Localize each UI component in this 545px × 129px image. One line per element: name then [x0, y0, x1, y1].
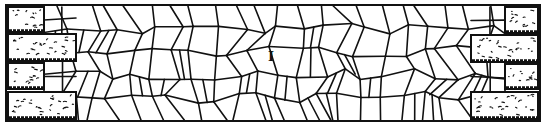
- stone-joint: [471, 77, 505, 78]
- stone-joint: [180, 50, 185, 79]
- stone-joint: [383, 6, 390, 34]
- stone-joint: [423, 92, 426, 120]
- stone-joint: [215, 56, 217, 80]
- stone-joint: [188, 50, 216, 56]
- stone-joint: [380, 77, 381, 98]
- stone-joint: [333, 6, 352, 23]
- stone-joint: [408, 25, 427, 26]
- stone-joint: [298, 6, 305, 29]
- stone-joint: [296, 77, 327, 78]
- stone-joint: [439, 98, 458, 100]
- stone-joint: [303, 29, 304, 48]
- stone-joint: [275, 6, 277, 26]
- stone-joint: [274, 98, 284, 120]
- stone-joint: [425, 26, 427, 49]
- stone-joint: [152, 49, 171, 50]
- stone-joint: [107, 30, 117, 54]
- stone-joint: [44, 71, 76, 74]
- stone-wall-illustration: [0, 0, 545, 129]
- stone-joint: [132, 95, 153, 96]
- stone-joint: [425, 79, 435, 92]
- stone-joint: [275, 26, 304, 29]
- stone-joint: [198, 102, 213, 103]
- stone-joint: [214, 80, 215, 102]
- stone-joint: [149, 49, 152, 80]
- stone-joint: [434, 49, 458, 80]
- stone-joint: [356, 6, 364, 27]
- stone-joint: [491, 6, 494, 26]
- stone-joint: [353, 27, 365, 57]
- stone-joint: [285, 76, 287, 100]
- stone-joint: [254, 6, 265, 33]
- stone-joint: [123, 6, 142, 34]
- stone-joint: [103, 6, 117, 30]
- stone-joint: [237, 6, 248, 29]
- stone-joint: [385, 34, 389, 56]
- stone-joint: [152, 6, 154, 27]
- stone-joint: [316, 77, 327, 93]
- stone-joint: [248, 29, 266, 33]
- stone-joint: [161, 79, 164, 95]
- brick-right: [505, 64, 538, 89]
- stone-joint: [402, 96, 404, 120]
- stone-joint: [149, 79, 153, 96]
- stone-joint: [308, 98, 319, 120]
- stone-joint: [214, 102, 227, 120]
- flagstone-pattern: [44, 6, 505, 120]
- stone-joint: [269, 47, 303, 49]
- stone-joint: [104, 95, 131, 98]
- stone-joint: [216, 26, 218, 56]
- brick-right: [471, 92, 538, 119]
- stone-joint: [130, 74, 132, 95]
- stone-joint: [188, 6, 193, 26]
- stone-joint: [256, 71, 258, 93]
- stone-joint: [218, 26, 247, 29]
- stone-joint: [428, 26, 448, 28]
- stone-joint: [319, 25, 324, 47]
- stone-joint: [113, 74, 130, 79]
- stone-joint: [316, 93, 331, 120]
- stone-joint: [406, 49, 425, 57]
- stone-joint: [274, 75, 277, 98]
- stone-joint: [337, 23, 352, 52]
- stone-joint: [152, 95, 165, 96]
- stone-joint: [439, 98, 442, 120]
- stone-joint: [214, 94, 240, 102]
- stone-joint: [439, 80, 458, 98]
- stone-joint: [403, 6, 408, 25]
- stone-joint: [265, 95, 272, 120]
- stone-joint: [434, 28, 448, 49]
- stone-joint: [93, 6, 101, 31]
- stone-joint: [390, 25, 409, 34]
- stone-joint: [135, 34, 143, 51]
- brick-left: [8, 92, 76, 119]
- stone-joint: [404, 69, 414, 96]
- stone-joint: [300, 103, 307, 120]
- stone-joint: [406, 25, 408, 57]
- brick-right: [505, 7, 538, 33]
- figure-label: I: [268, 50, 274, 63]
- stone-joint: [239, 77, 241, 94]
- stone-joint: [406, 56, 414, 68]
- stone-joint: [381, 69, 414, 77]
- stone-joint: [87, 98, 92, 120]
- stone-joint: [203, 80, 207, 103]
- stone-joint: [152, 27, 155, 49]
- brick-left: [8, 34, 76, 61]
- stone-joint: [381, 56, 385, 76]
- stone-joint: [107, 50, 135, 54]
- stone-joint: [92, 98, 104, 99]
- stone-joint: [445, 6, 448, 28]
- stone-joint: [216, 6, 219, 26]
- stone-joint: [319, 47, 328, 77]
- stone-joint: [296, 78, 300, 103]
- stone-joint: [79, 30, 84, 52]
- stone-joint: [88, 52, 100, 71]
- stone-joint: [247, 50, 258, 71]
- stone-joint: [170, 6, 183, 27]
- stone-joint: [321, 6, 323, 25]
- stone-joint: [226, 55, 241, 76]
- stone-joint: [88, 52, 107, 54]
- stone-joint: [165, 79, 180, 94]
- stone-joint: [104, 99, 119, 120]
